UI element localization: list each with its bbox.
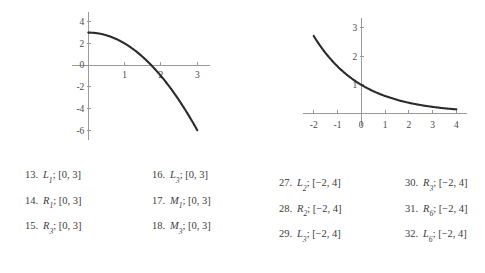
interval: [−2, 4] — [439, 177, 468, 188]
exercise-number: 31. — [398, 204, 418, 215]
x-tick-label: -1 — [334, 120, 342, 130]
interval: [−2, 4] — [312, 177, 341, 188]
x-tick-label: 1 — [383, 120, 388, 130]
subdivision-count: 3 — [176, 176, 180, 185]
exercise-body: M3; [0, 3] — [170, 221, 211, 234]
exercise-item: 27.L2; [−2, 4] — [272, 178, 341, 191]
exercise-item: 29.L3; [−2, 4] — [272, 229, 341, 242]
subdivision-count: 3 — [49, 227, 53, 236]
exercise-column-2: 16.L3; [0, 3]17.M1; [0, 3]18.M3; [0, 3] — [145, 170, 211, 247]
y-tick-label: 3 — [352, 23, 357, 33]
exercise-number: 32. — [398, 229, 418, 240]
exercise-lists: 13.L1; [0, 3]14.R1; [0, 3]15.R3; [0, 3] … — [0, 170, 485, 270]
exercise-body: R2; [−2, 4] — [297, 204, 341, 217]
subdivision-count: 3 — [179, 227, 183, 236]
exercise-number: 13. — [18, 170, 38, 181]
exercise-item: 31.R6; [−2, 4] — [398, 204, 467, 217]
exercise-body: L3; [0, 3] — [170, 170, 208, 183]
exercise-body: R3; [0, 3] — [43, 221, 82, 234]
exercise-item: 16.L3; [0, 3] — [145, 170, 211, 183]
interval: [−2, 4] — [438, 228, 467, 239]
subdivision-count: 6 — [429, 235, 433, 244]
subdivision-count: 1 — [49, 201, 53, 210]
subdivision-count: 2 — [303, 184, 307, 193]
riemann-sum-symbol: L — [297, 228, 303, 239]
y-tick-label: -4 — [76, 104, 84, 114]
interval: [0, 3] — [188, 195, 211, 206]
riemann-sum-symbol: L — [43, 169, 49, 180]
exercise-number: 16. — [145, 170, 165, 181]
riemann-sum-symbol: L — [170, 169, 176, 180]
subdivision-count: 3 — [429, 184, 433, 193]
exercise-number: 28. — [272, 204, 292, 215]
interval: [0, 3] — [185, 169, 208, 180]
subdivision-count: 1 — [49, 176, 53, 185]
riemann-sum-symbol: L — [423, 228, 429, 239]
exercise-body: L3; [−2, 4] — [297, 229, 341, 242]
exercise-body: L2; [−2, 4] — [297, 178, 341, 191]
exercise-item: 28.R2; [−2, 4] — [272, 204, 341, 217]
exercise-item: 32.L6; [−2, 4] — [398, 229, 467, 242]
exercise-item: 15.R3; [0, 3] — [18, 221, 82, 234]
exercise-number: 14. — [18, 196, 38, 207]
exercise-number: 27. — [272, 178, 292, 189]
subdivision-count: 2 — [303, 209, 307, 218]
riemann-sum-symbol: L — [297, 177, 303, 188]
exercise-body: L1; [0, 3] — [43, 170, 81, 183]
exercise-number: 17. — [145, 196, 165, 207]
subdivision-count: 1 — [179, 201, 183, 210]
figure-exponential: -2-101234123 — [295, 8, 475, 146]
curve-right — [314, 36, 457, 109]
riemann-sum-symbol: M — [170, 220, 179, 231]
exercise-body: R3; [−2, 4] — [423, 178, 467, 191]
x-tick-label: 3 — [195, 70, 200, 80]
interval: [0, 3] — [59, 195, 82, 206]
interval: [−2, 4] — [439, 203, 468, 214]
x-tick-label: 3 — [430, 120, 435, 130]
exercise-number: 18. — [145, 221, 165, 232]
curve-left — [88, 33, 197, 131]
x-tick-label: 0 — [359, 120, 364, 130]
subdivision-count: 3 — [303, 235, 307, 244]
exercise-number: 15. — [18, 221, 38, 232]
exercise-item: 14.R1; [0, 3] — [18, 196, 82, 209]
exercise-number: 29. — [272, 229, 292, 240]
interval: [0, 3] — [59, 220, 82, 231]
exercise-item: 30.R3; [−2, 4] — [398, 178, 467, 191]
exercise-number: 30. — [398, 178, 418, 189]
interval: [0, 3] — [188, 220, 211, 231]
y-tick-label: -6 — [76, 126, 84, 136]
y-tick-label: -2 — [76, 82, 84, 92]
riemann-sum-symbol: M — [170, 195, 179, 206]
exercise-column-1: 13.L1; [0, 3]14.R1; [0, 3]15.R3; [0, 3] — [18, 170, 82, 247]
y-tick-label: 2 — [352, 52, 357, 62]
x-tick-label: -2 — [310, 120, 318, 130]
exercise-body: R6; [−2, 4] — [423, 204, 467, 217]
exercise-column-3: 27.L2; [−2, 4]28.R2; [−2, 4]29.L3; [−2, … — [272, 178, 341, 255]
y-tick-label: 2 — [80, 39, 85, 49]
exercise-item: 17.M1; [0, 3] — [145, 196, 211, 209]
x-tick-label: 1 — [122, 70, 127, 80]
exercise-item: 13.L1; [0, 3] — [18, 170, 82, 183]
figure-parabola: 123420-2-4-6 — [46, 4, 216, 152]
exercise-body: M1; [0, 3] — [170, 196, 211, 209]
subdivision-count: 6 — [429, 209, 433, 218]
y-tick-label: 4 — [80, 17, 85, 27]
x-tick-label: 4 — [454, 120, 459, 130]
y-tick-label: 0 — [80, 60, 85, 70]
x-tick-label: 2 — [406, 120, 411, 130]
interval: [0, 3] — [58, 169, 81, 180]
exercise-body: R1; [0, 3] — [43, 196, 82, 209]
exercise-body: L6; [−2, 4] — [423, 229, 467, 242]
interval: [−2, 4] — [312, 228, 341, 239]
exercise-item: 18.M3; [0, 3] — [145, 221, 211, 234]
exercise-column-4: 30.R3; [−2, 4]31.R6; [−2, 4]32.L6; [−2, … — [398, 178, 467, 255]
interval: [−2, 4] — [313, 203, 342, 214]
parabola-plot: 123420-2-4-6 — [46, 4, 216, 152]
exponential-plot: -2-101234123 — [295, 8, 475, 146]
